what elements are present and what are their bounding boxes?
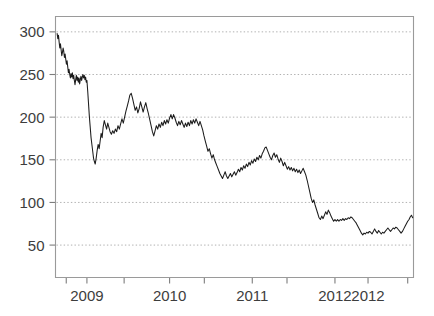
- xtick-marks-group: [66, 278, 407, 284]
- line-chart-svg: 50100150200250300 20092010201120122012: [0, 0, 434, 316]
- data-series-group: [57, 34, 413, 235]
- xtick-label-4: 2012: [351, 287, 384, 304]
- ytick-label-300: 300: [19, 23, 44, 40]
- ytick-label-50: 50: [28, 237, 45, 254]
- ytick-label-100: 100: [19, 194, 44, 211]
- gridlines-group: [57, 32, 413, 245]
- ytick-label-200: 200: [19, 109, 44, 126]
- plot-border: [56, 17, 414, 278]
- chart-figure: 50100150200250300 20092010201120122012: [0, 0, 434, 316]
- xtick-label-2: 2011: [236, 287, 268, 304]
- ytick-label-150: 150: [19, 151, 44, 168]
- xtick-label-1: 2010: [153, 287, 186, 304]
- series-line-price: [57, 34, 413, 235]
- plot-frame: [56, 17, 414, 278]
- ytick-label-250: 250: [19, 66, 44, 83]
- xtick-label-3: 2012: [318, 287, 351, 304]
- xtick-label-0: 2009: [70, 287, 103, 304]
- xtick-labels-group: 20092010201120122012: [70, 287, 384, 304]
- ytick-marks-group: [50, 32, 56, 245]
- ytick-labels-group: 50100150200250300: [19, 23, 44, 253]
